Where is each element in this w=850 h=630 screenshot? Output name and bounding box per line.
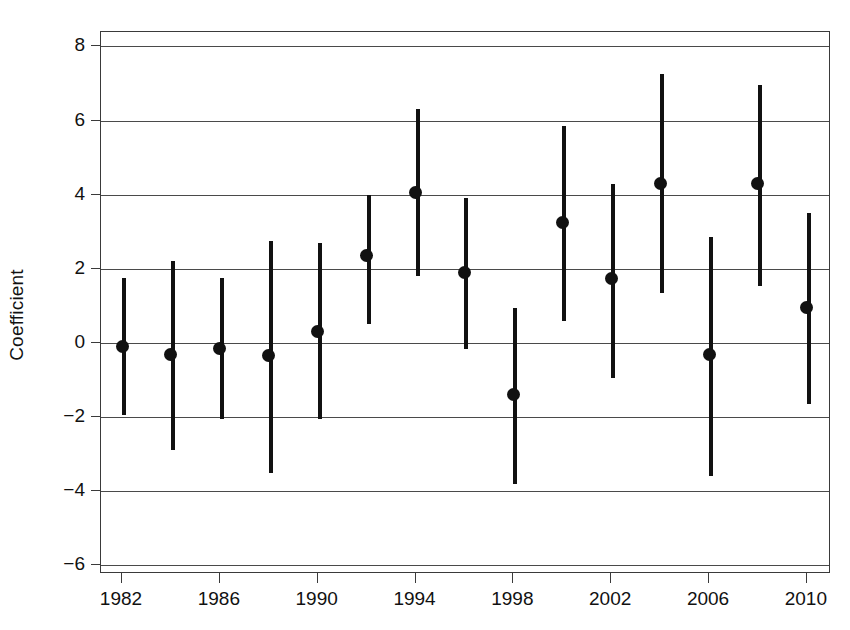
data-series-coefficient	[101, 32, 829, 572]
y-axis-tick	[91, 120, 100, 121]
x-axis-tick-label: 1990	[277, 588, 357, 609]
y-axis-tick	[91, 490, 100, 491]
data-point-marker	[213, 342, 226, 355]
x-axis-tick	[610, 573, 611, 583]
y-axis-tick-label-wrap: 0	[38, 332, 85, 351]
coefficient-error-bar-chart: Coefficient 86420−2−4−6 1982198619901994…	[0, 0, 850, 630]
y-axis-tick-label: −2	[47, 406, 85, 425]
x-axis-tick	[806, 573, 807, 583]
data-point-marker	[605, 272, 618, 285]
x-axis-tick	[708, 573, 709, 583]
y-axis-tick-label-wrap: 4	[38, 184, 85, 203]
x-axis-tick	[512, 573, 513, 583]
x-axis-tick-label: 1998	[472, 588, 552, 609]
y-axis-tick-label: 0	[47, 332, 85, 351]
y-axis-tick	[91, 342, 100, 343]
y-axis-tick-label: 6	[47, 110, 85, 129]
x-axis-tick-label: 2010	[766, 588, 846, 609]
x-axis-tick	[121, 573, 122, 583]
y-axis-tick-label-wrap: 8	[38, 35, 85, 54]
x-axis-tick-label: 1982	[81, 588, 161, 609]
data-point-marker	[556, 216, 569, 229]
data-point-marker	[458, 266, 471, 279]
data-point-marker	[262, 349, 275, 362]
x-axis-tick-label: 1986	[179, 588, 259, 609]
y-axis-tick	[91, 564, 100, 565]
data-point-marker	[751, 177, 764, 190]
y-axis-tick-label: −4	[47, 480, 85, 499]
data-point-marker	[409, 186, 422, 199]
x-axis-tick	[415, 573, 416, 583]
y-axis-tick-label-wrap: −6	[38, 554, 85, 573]
data-point-marker	[507, 388, 520, 401]
y-axis-title: Coefficient	[0, 0, 34, 630]
data-point-marker	[703, 348, 716, 361]
data-point-marker	[164, 348, 177, 361]
x-axis-tick	[219, 573, 220, 583]
y-axis-tick	[91, 45, 100, 46]
y-axis-tick	[91, 268, 100, 269]
data-point-marker	[116, 340, 129, 353]
y-axis-tick	[91, 194, 100, 195]
data-point-marker	[311, 325, 324, 338]
x-axis-tick-label: 2006	[668, 588, 748, 609]
y-axis-tick-label: 8	[47, 35, 85, 54]
y-axis-tick-label: 4	[47, 184, 85, 203]
x-axis-tick-label: 2002	[570, 588, 650, 609]
data-point-marker	[360, 249, 373, 262]
y-axis-tick	[91, 416, 100, 417]
x-axis-tick-label: 1994	[375, 588, 455, 609]
y-axis-tick-label-wrap: 6	[38, 110, 85, 129]
data-point-marker	[800, 301, 813, 314]
y-axis-tick-label: −6	[47, 554, 85, 573]
y-axis-tick-label-wrap: −2	[38, 406, 85, 425]
y-axis-tick-label: 2	[47, 258, 85, 277]
x-axis-tick	[317, 573, 318, 583]
y-axis-tick-label-wrap: 2	[38, 258, 85, 277]
data-point-marker	[654, 177, 667, 190]
plot-area	[100, 31, 830, 573]
y-axis-tick-label-wrap: −4	[38, 480, 85, 499]
